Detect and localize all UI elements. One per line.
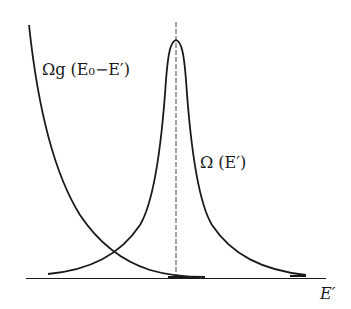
omega-g-label: Ωg (E₀−E′) (42, 60, 130, 79)
diagram-canvas: Ωg (E₀−E′) Ω (E′) E′ (0, 0, 351, 309)
plot-svg (0, 0, 351, 309)
x-axis-label: E′ (320, 284, 335, 303)
omega-label: Ω (E′) (200, 153, 246, 172)
